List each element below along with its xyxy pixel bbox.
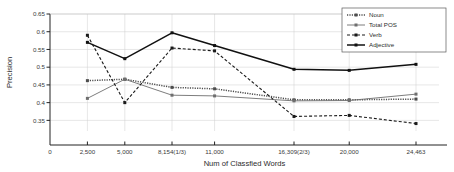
data-point-marker xyxy=(348,69,351,72)
legend-marker xyxy=(355,44,358,47)
series-line-noun xyxy=(87,79,416,100)
y-tick-label: 0.5 xyxy=(36,63,45,70)
chart-figure: 0.350.40.450.50.550.60.6502,5005,0008,15… xyxy=(0,0,454,172)
y-tick-label: 0.45 xyxy=(33,81,46,88)
data-point-marker xyxy=(86,97,89,100)
data-point-marker xyxy=(293,99,296,102)
data-point-marker xyxy=(415,122,418,125)
data-point-marker xyxy=(415,63,418,66)
y-tick-label: 0.6 xyxy=(36,28,45,35)
x-tick-label: 2,500 xyxy=(80,148,96,155)
x-tick-label: 5,000 xyxy=(117,148,133,155)
data-point-marker xyxy=(171,47,174,50)
legend-label-verb: Verb xyxy=(369,31,382,38)
y-tick-label: 0.35 xyxy=(33,117,46,124)
legend-marker xyxy=(355,24,358,27)
x-axis-title: Num of Classfied Words xyxy=(204,159,286,168)
x-tick-label: 16,309(2/3) xyxy=(278,148,310,155)
x-tick-label: 20,000 xyxy=(340,148,359,155)
y-tick-label: 0.65 xyxy=(33,10,46,17)
data-point-marker xyxy=(86,41,89,44)
data-point-marker xyxy=(415,98,418,101)
legend-label-noun: Noun xyxy=(369,11,384,18)
data-point-marker xyxy=(293,68,296,71)
data-point-marker xyxy=(86,34,89,37)
legend-marker xyxy=(355,34,358,37)
data-point-marker xyxy=(171,94,174,97)
data-point-marker xyxy=(213,49,216,52)
legend-marker xyxy=(355,14,358,17)
data-point-marker xyxy=(86,79,89,82)
data-point-marker xyxy=(415,93,418,96)
data-point-marker xyxy=(348,99,351,102)
series-line-total-pos xyxy=(87,79,416,101)
data-point-marker xyxy=(293,115,296,118)
data-point-marker xyxy=(123,57,126,60)
data-point-marker xyxy=(171,31,174,34)
y-tick-label: 0.4 xyxy=(36,99,45,106)
x-tick-label: 8,154(1/3) xyxy=(158,148,186,155)
data-point-marker xyxy=(123,101,126,104)
x-tick-label: 0 xyxy=(48,148,52,155)
x-tick-label: 11,000 xyxy=(205,148,224,155)
data-point-marker xyxy=(348,114,351,117)
x-tick-label: 24,463 xyxy=(407,148,426,155)
legend-label-total-pos: Total POS xyxy=(369,21,397,28)
legend-label-adjective: Adjective xyxy=(369,41,395,48)
y-tick-label: 0.55 xyxy=(33,46,46,53)
precision-line-chart: 0.350.40.450.50.550.60.6502,5005,0008,15… xyxy=(0,0,454,172)
data-point-marker xyxy=(213,94,216,97)
data-point-marker xyxy=(213,87,216,90)
data-point-marker xyxy=(213,44,216,47)
y-axis-title: Precision xyxy=(5,57,14,88)
data-point-marker xyxy=(123,78,126,81)
data-point-marker xyxy=(171,86,174,89)
